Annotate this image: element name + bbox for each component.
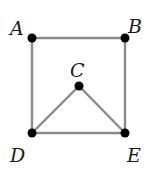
node-e — [121, 129, 130, 138]
label-c: C — [70, 59, 85, 81]
edge-c-e — [79, 86, 125, 133]
node-a — [28, 34, 37, 43]
node-d — [28, 129, 37, 138]
label-b: B — [127, 15, 142, 37]
label-d: D — [9, 144, 25, 166]
edge-c-d — [32, 86, 79, 133]
label-e: E — [126, 144, 141, 166]
node-c — [75, 82, 84, 91]
graph-diagram: A B C D E — [0, 0, 146, 179]
label-a: A — [8, 17, 24, 39]
